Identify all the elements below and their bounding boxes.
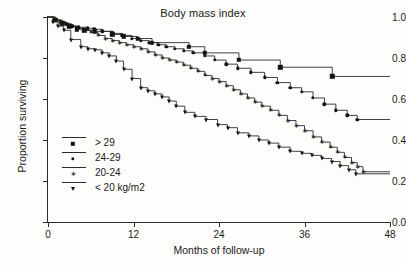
legend-label: < 20 kg/m2 [95,182,145,193]
x-tick-label: 48 [384,229,395,240]
chart-screenshot: Body mass index Proportion surviving 0.0… [0,0,406,265]
square-marker [71,142,75,146]
legend-label: 24-29 [95,152,121,163]
legend-label: > 29 [95,137,115,148]
legend-entry-2: 24-29 [62,151,172,166]
survival-curve-2 [48,17,390,120]
y-tick-mark [43,222,47,223]
survival-chart-figure: Body mass index Proportion surviving 0.0… [0,0,406,265]
legend-key [62,151,88,166]
x-tick-mark [219,223,220,227]
y-tick-mark [43,58,47,59]
y-tick-mark [43,17,47,18]
legend-entry-3: ∗20-24 [62,166,172,181]
legend-key [62,136,88,151]
legend-key [62,181,88,196]
chart-legend: > 2924-29∗20-24< 20 kg/m2 [62,136,172,196]
x-tick-mark [134,223,135,227]
legend-key-line [62,182,86,183]
legend-entry-4: < 20 kg/m2 [62,181,172,196]
legend-label: 20-24 [95,167,121,178]
y-axis-title: Proportion surviving [16,51,28,201]
x-tick-label: 36 [299,229,310,240]
y-tick-mark [43,181,47,182]
y-tick-mark [43,99,47,100]
star-marker: ∗ [71,172,76,177]
y-tick-mark [43,140,47,141]
x-tick-mark [390,223,391,227]
legend-key-line [62,152,86,153]
x-tick-label: 24 [213,229,224,240]
x-tick-label: 0 [45,229,51,240]
legend-key-line [62,167,86,168]
legend-key-line [62,137,86,138]
legend-entry-1: > 29 [62,136,172,151]
legend-key: ∗ [62,166,88,181]
x-tick-label: 12 [128,229,139,240]
circle-marker [71,157,74,160]
x-tick-mark [48,223,49,227]
survival-curve-1 [48,17,390,76]
x-axis-title: Months of follow-up [48,244,390,256]
triangle-down-marker [71,187,75,191]
x-tick-mark [305,223,306,227]
